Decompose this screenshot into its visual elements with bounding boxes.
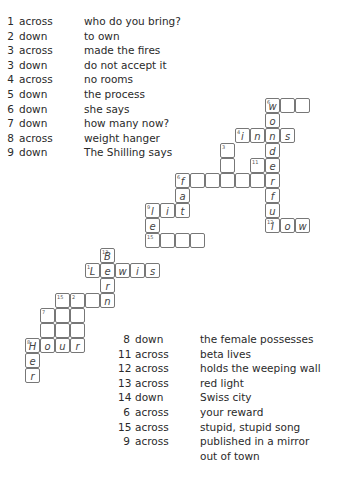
clue-direction: across xyxy=(135,434,169,449)
clue-number: 2 xyxy=(2,29,14,44)
grid-cell[interactable] xyxy=(55,308,70,323)
cell-letter: e xyxy=(101,265,114,278)
grid-cell[interactable] xyxy=(280,98,295,113)
grid-cell[interactable]: 11 xyxy=(250,158,265,173)
cell-letter: w xyxy=(116,265,129,278)
clue-row: 3acrossmade the fires xyxy=(2,43,252,58)
grid-cell[interactable] xyxy=(55,323,70,338)
grid-cell[interactable]: 6w xyxy=(265,98,280,113)
grid-cell[interactable] xyxy=(40,323,55,338)
clue-row: 8downthe female possesses xyxy=(118,332,338,347)
cell-letter: n xyxy=(101,295,114,308)
grid-cell[interactable]: r xyxy=(25,368,40,383)
grid-cell[interactable]: d xyxy=(265,143,280,158)
grid-cell[interactable]: 3 xyxy=(220,143,235,158)
grid-cell[interactable] xyxy=(70,308,85,323)
clue-number: 12 xyxy=(118,361,130,376)
clue-direction: across xyxy=(135,405,169,420)
grid-cell[interactable]: n xyxy=(265,128,280,143)
grid-cell[interactable]: r xyxy=(265,173,280,188)
grid-cell[interactable]: i xyxy=(130,263,145,278)
clue-text: do not accept it xyxy=(84,58,167,73)
grid-cell[interactable]: s xyxy=(280,128,295,143)
clue-text: who do you bring? xyxy=(84,14,181,29)
grid-cell[interactable]: a xyxy=(175,188,190,203)
cell-letter: t xyxy=(176,205,189,218)
cell-letter: r xyxy=(26,370,39,383)
grid-cell[interactable]: e xyxy=(25,353,40,368)
grid-cell[interactable]: 4i xyxy=(235,128,250,143)
cell-letter: s xyxy=(281,130,294,143)
cell-letter: f xyxy=(266,190,279,203)
clue-number: 9 xyxy=(118,434,130,449)
clue-row: 3downdo not accept it xyxy=(2,58,252,73)
cell-number: 15 xyxy=(147,234,153,240)
cell-letter: L xyxy=(86,265,99,278)
clue-row: 6downshe says xyxy=(2,102,252,117)
grid-cell[interactable]: u xyxy=(265,203,280,218)
grid-cell[interactable]: 6f xyxy=(175,173,190,188)
clue-direction: down xyxy=(19,145,47,160)
cell-letter: u xyxy=(266,205,279,218)
clue-row: 9acrosspublished in a mirror xyxy=(118,434,338,449)
grid-cell[interactable] xyxy=(250,173,265,188)
grid-cell[interactable] xyxy=(190,173,205,188)
grid-cell[interactable]: u xyxy=(55,338,70,353)
grid-cell[interactable]: w xyxy=(115,263,130,278)
grid-cell[interactable]: 13B xyxy=(100,248,115,263)
clue-row: out of town xyxy=(118,449,338,464)
grid-cell[interactable]: f xyxy=(265,188,280,203)
grid-cell[interactable]: n xyxy=(100,293,115,308)
grid-cell[interactable] xyxy=(220,158,235,173)
grid-cell[interactable]: t xyxy=(175,203,190,218)
grid-cell[interactable] xyxy=(85,293,100,308)
grid-cell[interactable]: o xyxy=(280,218,295,233)
cell-letter: o xyxy=(266,115,279,128)
clue-text: made the fires xyxy=(84,43,160,58)
grid-cell[interactable] xyxy=(175,233,190,248)
grid-cell[interactable] xyxy=(190,233,205,248)
clue-row: 7downhow many now? xyxy=(2,116,252,131)
grid-cell[interactable] xyxy=(70,323,85,338)
grid-cell[interactable] xyxy=(205,173,220,188)
grid-cell[interactable]: r xyxy=(70,338,85,353)
grid-cell[interactable]: 15 xyxy=(55,293,70,308)
grid-cell[interactable]: r xyxy=(100,278,115,293)
grid-cell[interactable]: e xyxy=(265,158,280,173)
grid-cell[interactable]: 7 xyxy=(40,308,55,323)
clue-number: 5 xyxy=(2,87,14,102)
grid-cell[interactable] xyxy=(220,173,235,188)
grid-cell[interactable]: e xyxy=(100,263,115,278)
clue-number: 1 xyxy=(2,14,14,29)
grid-cell[interactable]: e xyxy=(145,218,160,233)
cell-number: 15 xyxy=(57,294,63,300)
cell-letter: l xyxy=(146,205,159,218)
clue-direction: down xyxy=(135,332,163,347)
grid-cell[interactable]: w xyxy=(295,218,310,233)
grid-cell[interactable]: i xyxy=(160,203,175,218)
grid-cell[interactable]: 1L xyxy=(85,263,100,278)
cell-letter: B xyxy=(101,250,114,263)
clue-text: your reward xyxy=(200,405,263,420)
cell-letter: e xyxy=(146,220,159,233)
cell-number: 7 xyxy=(42,309,45,315)
grid-cell[interactable] xyxy=(295,98,310,113)
grid-cell[interactable]: o xyxy=(265,113,280,128)
clue-text: the process xyxy=(84,87,145,102)
grid-cell[interactable]: s xyxy=(145,263,160,278)
cell-letter: r xyxy=(71,340,84,353)
clue-direction: across xyxy=(135,347,169,362)
grid-cell[interactable] xyxy=(235,173,250,188)
grid-cell[interactable]: 12l xyxy=(265,218,280,233)
grid-cell[interactable]: o xyxy=(40,338,55,353)
grid-cell[interactable]: 2 xyxy=(70,293,85,308)
grid-cell[interactable]: 15 xyxy=(145,233,160,248)
cell-letter: s xyxy=(146,265,159,278)
cell-letter: a xyxy=(176,190,189,203)
grid-cell[interactable] xyxy=(160,233,175,248)
clue-direction: down xyxy=(19,58,47,73)
grid-cell[interactable]: 9l xyxy=(145,203,160,218)
grid-cell[interactable]: n xyxy=(250,128,265,143)
clue-direction: across xyxy=(19,14,53,29)
grid-cell[interactable]: 8H xyxy=(25,338,40,353)
